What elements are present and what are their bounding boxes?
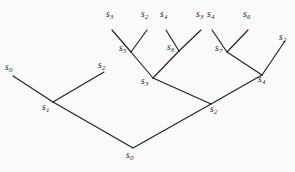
tree-edge [131, 52, 153, 78]
tree-edge [262, 41, 285, 75]
node-subscript: 4 [262, 78, 266, 85]
node-label-node-s5: s5 [119, 44, 126, 54]
edges-group [13, 30, 285, 148]
node-label-leaf-s6-b: s6 [243, 10, 250, 20]
node-label-leaf-s3-b: s3 [196, 10, 203, 20]
tree-edge [227, 52, 262, 75]
node-subscript: 4 [211, 13, 215, 20]
tree-edge [133, 104, 211, 148]
tree-edge [131, 30, 147, 52]
node-subscript: 6 [247, 13, 251, 20]
node-subscript: 0 [9, 66, 13, 73]
node-label-leaf-s4-a: s4 [160, 10, 167, 20]
node-subscript: 3 [110, 13, 114, 20]
node-label-leaf-s3-a: s3 [106, 10, 113, 20]
node-label-node-s3: s3 [141, 77, 148, 87]
node-subscript: 5 [123, 47, 127, 54]
node-label-node-s4: s4 [258, 75, 265, 85]
node-subscript: 3 [200, 13, 204, 20]
node-subscript: 3 [145, 80, 149, 87]
node-subscript: 6 [171, 46, 175, 53]
node-subscript: 4 [164, 13, 168, 20]
node-label-leaf-s2-c: s2 [279, 33, 286, 43]
tree-diagram-figure: s3s2s4s3s4s6s5s6s7s2s0s2s3s4s1s2s0 [0, 0, 295, 172]
node-label-node-s6: s6 [167, 43, 174, 53]
node-label-leaf-s2-l: s2 [98, 61, 105, 71]
tree-edge [53, 72, 104, 102]
tree-edge [153, 78, 211, 104]
node-subscript: 2 [214, 108, 218, 115]
node-label-node-s1: s1 [42, 103, 49, 113]
node-label-leaf-s2-a: s2 [141, 10, 148, 20]
node-subscript: 2 [145, 13, 149, 20]
node-subscript: 7 [219, 47, 223, 54]
node-subscript: 2 [102, 64, 106, 71]
tree-edge [13, 76, 53, 102]
node-label-leaf-s4-b: s4 [207, 10, 214, 20]
node-subscript: 2 [283, 36, 287, 43]
tree-edge [227, 30, 248, 52]
node-label-node-s2: s2 [210, 105, 217, 115]
tree-edge [211, 75, 262, 104]
node-subscript: 0 [130, 154, 134, 161]
node-label-node-s7: s7 [215, 44, 222, 54]
tree-edge [53, 102, 133, 148]
node-label-leaf-s0-l: s0 [5, 63, 12, 73]
tree-edge [179, 30, 201, 51]
node-label-root-s0: s0 [126, 151, 133, 161]
tree-edge [153, 51, 179, 78]
node-subscript: 1 [46, 106, 50, 113]
